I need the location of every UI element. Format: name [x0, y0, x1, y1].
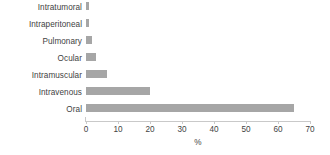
category-label: Ocular	[0, 54, 82, 63]
bar	[86, 2, 89, 10]
x-tick-label: 10	[106, 125, 130, 135]
x-tick-mark	[246, 121, 247, 124]
x-tick-label: 0	[74, 125, 98, 135]
x-tick-mark	[150, 121, 151, 124]
category-label: Oral	[0, 105, 82, 114]
x-tick-label: 30	[170, 125, 194, 135]
bar	[86, 19, 89, 27]
x-tick-label: 20	[138, 125, 162, 135]
x-tick-label: 60	[266, 125, 290, 135]
x-tick-label: 40	[202, 125, 226, 135]
bar	[86, 104, 294, 112]
bar	[86, 70, 107, 78]
category-label: Intratumoral	[0, 3, 82, 12]
bar-chart: Intratumoral Intraperitoneal Pulmonary O…	[0, 0, 330, 155]
x-tick-label: 50	[234, 125, 258, 135]
category-label: Intraperitoneal	[0, 20, 82, 29]
x-axis-title: %	[86, 138, 310, 148]
x-tick-label: 70	[298, 125, 322, 135]
x-tick-mark	[278, 121, 279, 124]
x-tick-mark	[86, 121, 87, 124]
x-tick-mark	[118, 121, 119, 124]
category-label: Pulmonary	[0, 37, 82, 46]
category-label: Intramuscular	[0, 71, 82, 80]
bar	[86, 53, 96, 61]
x-tick-mark	[182, 121, 183, 124]
x-tick-mark	[310, 121, 311, 124]
category-label: Intravenous	[0, 88, 82, 97]
bar	[86, 36, 92, 44]
x-tick-mark	[214, 121, 215, 124]
bar	[86, 87, 150, 95]
